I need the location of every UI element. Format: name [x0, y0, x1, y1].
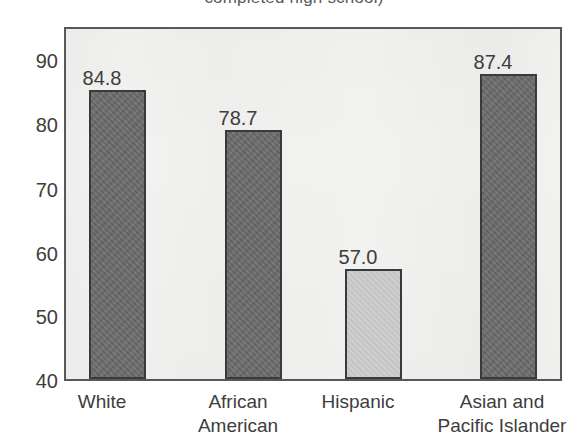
y-tick-label-80: 80 — [6, 115, 58, 135]
x-category-label-white: White — [42, 390, 162, 414]
bar-value-african-american: 78.7 — [193, 108, 283, 128]
y-tick-label-40: 40 — [6, 371, 58, 391]
y-tick-label-50: 50 — [6, 307, 58, 327]
x-category-label-asian-and-pacific-islander: Asian and Pacific Islander — [422, 390, 582, 438]
bar-value-white: 84.8 — [57, 68, 147, 88]
bar-white[interactable] — [89, 90, 146, 379]
y-tick-label-90: 90 — [6, 51, 58, 71]
x-category-label-african-american: African American — [178, 390, 298, 438]
bar-value-hispanic: 57.0 — [313, 247, 403, 267]
bar-asian-and-pacific-islander[interactable] — [480, 74, 537, 379]
bar-value-asian-and-pacific-islander: 87.4 — [448, 52, 538, 72]
chart-figure: completed high school) 90 80 70 60 50 40… — [0, 0, 588, 448]
bar-hispanic[interactable] — [345, 269, 402, 379]
y-tick-label-60: 60 — [6, 244, 58, 264]
bar-african-american[interactable] — [225, 130, 282, 379]
chart-title: completed high school) — [0, 0, 588, 9]
x-category-label-hispanic: Hispanic — [298, 390, 418, 414]
y-tick-label-70: 70 — [6, 180, 58, 200]
